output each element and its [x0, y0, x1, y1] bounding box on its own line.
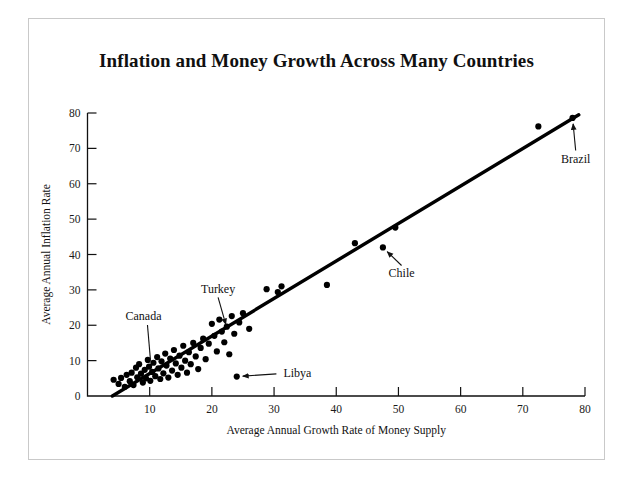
data-point	[175, 372, 181, 378]
annotation-label-turkey: Turkey	[201, 282, 235, 296]
annotation-leader-chile	[387, 252, 401, 266]
y-tick-label: 60	[69, 178, 81, 190]
data-point	[203, 356, 209, 362]
x-tick-label: 70	[517, 403, 529, 415]
data-point	[169, 367, 175, 373]
data-points-layer	[111, 115, 576, 390]
data-point	[221, 339, 227, 345]
y-tick-label: 20	[69, 319, 81, 331]
data-point	[150, 360, 156, 366]
annotation-label-chile: Chile	[389, 266, 415, 280]
data-point	[229, 313, 235, 319]
data-point	[122, 384, 128, 390]
data-point	[380, 244, 386, 250]
y-axis-title: Average Annual Inflation Rate	[40, 184, 53, 325]
scatter-plot: 010203040506070801020304050607080 Canada…	[0, 0, 633, 484]
data-point	[184, 370, 190, 376]
data-point	[115, 381, 121, 387]
x-tick-label: 10	[144, 403, 156, 415]
data-point	[155, 365, 161, 371]
data-point	[160, 370, 166, 376]
data-point	[275, 289, 281, 295]
data-point	[195, 366, 201, 372]
data-point	[163, 362, 169, 368]
x-tick-label: 30	[268, 403, 280, 415]
y-tick-label: 30	[69, 284, 81, 296]
data-point	[188, 361, 194, 367]
x-tick-label: 40	[331, 403, 343, 415]
data-point	[173, 360, 179, 366]
data-point	[352, 240, 358, 246]
data-point	[158, 358, 164, 364]
trend-line	[112, 115, 578, 396]
y-tick-label: 0	[75, 390, 81, 402]
annotation-label-canada: Canada	[125, 309, 162, 323]
data-point	[200, 336, 206, 342]
data-point	[392, 225, 398, 231]
data-point	[129, 370, 135, 376]
data-point	[569, 115, 575, 121]
data-point	[182, 358, 188, 364]
data-point	[147, 378, 153, 384]
data-point	[535, 123, 541, 129]
data-point	[226, 351, 232, 357]
data-point	[165, 375, 171, 381]
regression-line	[112, 115, 578, 396]
y-tick-label: 70	[69, 142, 81, 154]
data-point	[176, 353, 182, 359]
x-tick-label: 50	[393, 403, 405, 415]
x-tick-label: 80	[579, 403, 591, 415]
data-point	[193, 353, 199, 359]
data-point	[324, 282, 330, 288]
data-point	[136, 361, 142, 367]
data-point	[231, 331, 237, 337]
data-point	[278, 283, 284, 289]
data-point	[214, 348, 220, 354]
data-point	[224, 324, 230, 330]
data-point	[130, 382, 136, 388]
data-point	[211, 333, 217, 339]
data-point	[234, 373, 240, 379]
annotation-label-libya: Libya	[283, 366, 312, 380]
data-point	[162, 350, 168, 356]
data-point	[209, 321, 215, 327]
data-point	[157, 376, 163, 382]
annotation-label-brazil: Brazil	[561, 152, 591, 166]
data-point	[171, 347, 177, 353]
data-point	[206, 341, 212, 347]
data-point	[219, 329, 225, 335]
y-tick-label: 10	[69, 355, 81, 367]
data-point	[186, 349, 192, 355]
data-point	[264, 286, 270, 292]
figure-root: Inflation and Money Growth Across Many C…	[0, 0, 633, 484]
data-point	[216, 316, 222, 322]
x-axis-title: Average Annual Growth Rate of Money Supp…	[226, 424, 446, 437]
x-tick-label: 20	[206, 403, 218, 415]
data-point	[236, 319, 242, 325]
y-tick-label: 50	[69, 213, 81, 225]
y-tick-label: 40	[69, 249, 81, 261]
data-point	[178, 365, 184, 371]
data-point	[190, 340, 196, 346]
data-point	[198, 345, 204, 351]
x-tick-label: 60	[455, 403, 467, 415]
data-point	[118, 375, 124, 381]
data-point	[246, 326, 252, 332]
data-point	[240, 310, 246, 316]
annotation-leader-libya	[243, 374, 277, 376]
y-tick-label: 80	[69, 107, 81, 119]
data-point	[111, 377, 117, 383]
annotation-leader-canada	[147, 325, 150, 360]
data-point	[180, 343, 186, 349]
annotation-leader-brazil	[573, 124, 576, 151]
data-point	[167, 355, 173, 361]
